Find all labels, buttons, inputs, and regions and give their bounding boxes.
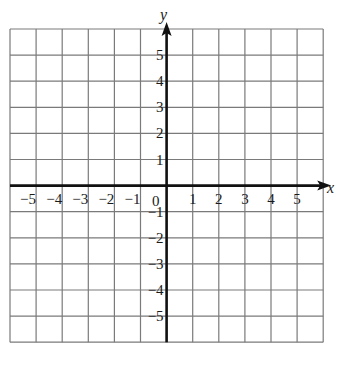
y-tick-label: 5 bbox=[156, 47, 164, 63]
origin-label: 0 bbox=[152, 193, 160, 209]
x-tick-label: −2 bbox=[98, 191, 114, 207]
x-tick-label: 4 bbox=[267, 191, 275, 207]
x-axis-label: x bbox=[326, 179, 334, 196]
y-tick-label: 3 bbox=[156, 99, 164, 115]
y-tick-label: −3 bbox=[148, 256, 164, 272]
y-tick-label: 1 bbox=[156, 152, 164, 168]
x-tick-label: −5 bbox=[20, 191, 36, 207]
x-tick-label: 2 bbox=[215, 191, 223, 207]
x-tick-label: −4 bbox=[46, 191, 62, 207]
y-tick-label: 2 bbox=[156, 125, 164, 141]
x-tick-label: 3 bbox=[241, 191, 249, 207]
y-tick-label: 4 bbox=[156, 73, 164, 89]
x-tick-label: −1 bbox=[125, 191, 141, 207]
x-tick-label: −3 bbox=[72, 191, 88, 207]
axes bbox=[10, 22, 331, 342]
y-axis-label: y bbox=[158, 6, 168, 24]
y-tick-label: −4 bbox=[148, 282, 164, 298]
x-tick-label: 1 bbox=[189, 191, 197, 207]
x-tick-label: 5 bbox=[293, 191, 301, 207]
y-tick-label: −5 bbox=[148, 308, 164, 324]
coordinate-grid: −5−4−3−2−11234554321−1−2−3−4−5 x y 0 bbox=[0, 0, 340, 369]
y-tick-label: −2 bbox=[148, 230, 164, 246]
